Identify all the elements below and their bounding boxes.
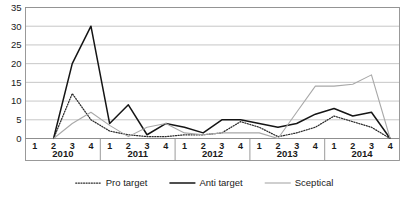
quarterly-sentiment-line-chart: 0510152025303512342010123420111234201212… bbox=[0, 0, 409, 205]
y-axis-tick-20: 20 bbox=[11, 58, 22, 69]
x-axis-quarter-label: 4 bbox=[88, 141, 93, 151]
y-axis-tick-30: 30 bbox=[11, 21, 22, 32]
legend-item-pro-target[interactable]: Pro target bbox=[76, 177, 148, 188]
y-axis-tick-5: 5 bbox=[16, 114, 21, 125]
x-axis-quarter-label: 1 bbox=[32, 141, 37, 151]
legend-item-anti-target[interactable]: Anti target bbox=[169, 177, 243, 188]
x-axis-quarter-label: 4 bbox=[388, 141, 393, 151]
legend-label: Pro target bbox=[106, 177, 148, 188]
x-axis-quarter-label: 1 bbox=[182, 141, 187, 151]
x-axis-year-label-2011: 2011 bbox=[127, 148, 148, 159]
series-line-pro-target bbox=[54, 94, 391, 139]
chart-canvas: 0510152025303512342010123420111234201212… bbox=[0, 0, 409, 205]
x-axis-quarter-label: 1 bbox=[257, 141, 262, 151]
x-axis-quarter-label: 4 bbox=[163, 141, 168, 151]
x-axis-quarter-label: 4 bbox=[313, 141, 318, 151]
x-axis-year-label-2012: 2012 bbox=[202, 148, 223, 159]
x-axis-year-label-2010: 2010 bbox=[52, 148, 73, 159]
y-axis-tick-0: 0 bbox=[16, 133, 21, 144]
series-line-sceptical bbox=[54, 75, 391, 139]
x-axis-year-label-2014: 2014 bbox=[352, 148, 374, 159]
legend-item-sceptical[interactable]: Sceptical bbox=[265, 177, 334, 188]
y-axis-tick-15: 15 bbox=[11, 77, 22, 88]
y-axis-tick-35: 35 bbox=[11, 2, 22, 13]
legend-label: Sceptical bbox=[295, 177, 334, 188]
x-axis-quarter-label: 1 bbox=[332, 141, 337, 151]
legend-label: Anti target bbox=[199, 177, 243, 188]
x-axis-quarter-label: 4 bbox=[238, 141, 243, 151]
y-axis-tick-10: 10 bbox=[11, 95, 22, 106]
x-axis-year-label-2013: 2013 bbox=[277, 148, 298, 159]
y-axis-tick-25: 25 bbox=[11, 39, 22, 50]
x-axis-quarter-label: 1 bbox=[107, 141, 112, 151]
